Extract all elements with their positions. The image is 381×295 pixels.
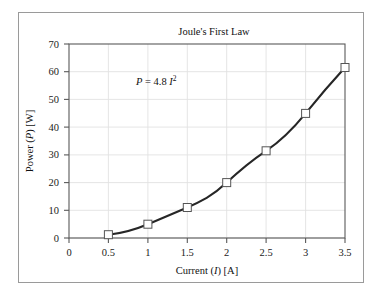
figure-panel: 0 10 20 30 40 50 60 70 0 0.5 1 1.5 2 2.5…	[18, 12, 364, 283]
y-tick-label-40: 40	[49, 122, 60, 133]
x-axis-title-suffix: ) [A]	[218, 265, 239, 277]
y-tick-labels-group: 0 10 20 30 40 50 60 70	[49, 39, 60, 244]
x-tick-label-1: 1	[145, 247, 150, 258]
x-tick-label-3: 3	[303, 247, 308, 258]
y-tick-label-30: 30	[49, 149, 60, 160]
gridlines-group	[69, 44, 345, 238]
y-tick-label-0: 0	[54, 233, 59, 244]
x-tick-label-2.5: 2.5	[260, 247, 273, 258]
data-point-marker[interactable]	[144, 220, 152, 228]
plot-area-frame	[69, 44, 345, 238]
y-tick-label-70: 70	[49, 39, 60, 50]
x-tick-label-0.5: 0.5	[102, 247, 115, 258]
x-tick-label-1.5: 1.5	[181, 247, 194, 258]
annotation-exponent: 2	[173, 74, 177, 83]
y-axis-title-prefix: Power (	[24, 139, 36, 172]
chart-title: Joule's First Law	[178, 26, 250, 37]
y-axis-title: Power (P) [W]	[24, 110, 36, 172]
y-tick-label-20: 20	[49, 177, 60, 188]
x-tick-label-2: 2	[224, 247, 229, 258]
y-axis-title-suffix: ) [W]	[24, 110, 36, 133]
equation-annotation: P = 4.8 I2	[135, 74, 177, 87]
data-point-marker[interactable]	[341, 64, 349, 72]
x-axis-title: Current (I) [A]	[176, 265, 238, 277]
data-point-marker[interactable]	[302, 109, 310, 117]
y-tick-label-50: 50	[49, 94, 60, 105]
x-tick-label-0: 0	[66, 247, 71, 258]
annotation-coefficient: 4.8	[154, 76, 167, 87]
x-tick-label-3.5: 3.5	[338, 247, 351, 258]
data-point-marker[interactable]	[223, 179, 231, 187]
joule-first-law-chart: 0 10 20 30 40 50 60 70 0 0.5 1 1.5 2 2.5…	[19, 13, 363, 282]
data-point-marker[interactable]	[104, 231, 112, 239]
x-tick-labels-group: 0 0.5 1 1.5 2 2.5 3 3.5	[66, 247, 351, 258]
y-tick-label-10: 10	[49, 205, 60, 216]
x-axis-title-prefix: Current (	[176, 265, 215, 277]
data-point-marker[interactable]	[262, 147, 270, 155]
y-tick-label-60: 60	[49, 66, 60, 77]
y-tickmarks-group	[64, 44, 69, 238]
data-point-marker[interactable]	[183, 204, 191, 212]
